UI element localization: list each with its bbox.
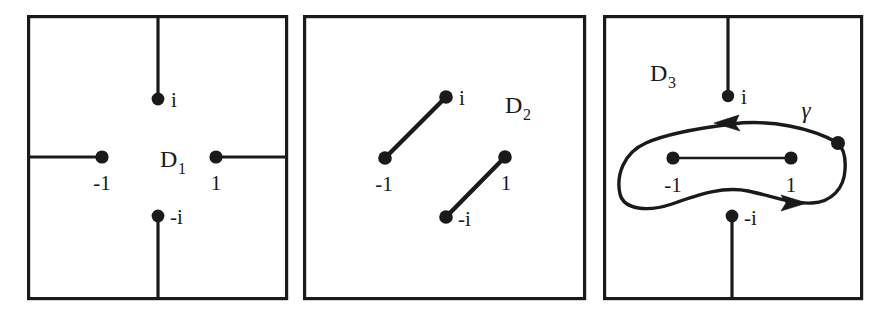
panel-3-point-i bbox=[722, 90, 734, 102]
panel-2-label-i: i bbox=[459, 86, 465, 110]
panel-1-point-minus1 bbox=[95, 150, 108, 163]
panel-1-point-i bbox=[152, 93, 165, 106]
panel-3: i -1 1 -i γ D 3 bbox=[605, 16, 862, 299]
panel-3-domain-label: D bbox=[650, 60, 667, 86]
panel-2-domain-subscript: 2 bbox=[523, 106, 531, 123]
panel-3-point-minusi bbox=[726, 210, 739, 223]
panel-3-label-i: i bbox=[741, 85, 747, 109]
gamma-loop bbox=[619, 123, 845, 209]
complex-analysis-figure: i -1 1 -i D 1 i -1 1 -i D 2 bbox=[0, 0, 886, 317]
panel-2-point-i bbox=[439, 90, 453, 104]
panel-2-label-1: 1 bbox=[501, 171, 512, 195]
figure-canvas: i -1 1 -i D 1 i -1 1 -i D 2 bbox=[0, 0, 886, 317]
panel-1-label-1: 1 bbox=[211, 171, 222, 195]
panel-1-label-i: i bbox=[171, 88, 177, 112]
panel-1: i -1 1 -i D 1 bbox=[29, 16, 287, 299]
panel-1-point-1 bbox=[209, 150, 222, 163]
panel-1-label-minusi: -i bbox=[170, 205, 183, 229]
panel-2-label-minusi: -i bbox=[458, 207, 471, 231]
panel-3-label-1: 1 bbox=[786, 173, 797, 197]
panel-3-domain-subscript: 3 bbox=[668, 74, 676, 91]
gamma-label: γ bbox=[801, 98, 811, 123]
gamma-basepoint bbox=[831, 136, 845, 150]
panel-2-point-minusi bbox=[439, 210, 453, 224]
panel-2-point-1 bbox=[498, 150, 512, 164]
panel-1-point-minusi bbox=[152, 210, 165, 223]
panel-2-slit-minusi-to-1 bbox=[446, 157, 505, 217]
panel-2-label-minus1: -1 bbox=[375, 172, 393, 196]
panel-1-label-minus1: -1 bbox=[93, 171, 111, 195]
panel-1-domain-subscript: 1 bbox=[178, 160, 186, 177]
panel-2-frame bbox=[305, 17, 585, 299]
panel-3-point-minus1 bbox=[666, 151, 679, 164]
panel-3-label-minusi: -i bbox=[744, 206, 757, 230]
panel-2: i -1 1 -i D 2 bbox=[305, 17, 585, 299]
panel-1-domain-label: D bbox=[160, 146, 177, 172]
gamma-arrow-bottom bbox=[781, 195, 807, 211]
panel-2-point-minus1 bbox=[378, 151, 392, 165]
panel-2-domain-label: D bbox=[505, 92, 522, 118]
panel-3-label-minus1: -1 bbox=[664, 173, 682, 197]
panel-2-slit-minus1-to-i bbox=[385, 97, 446, 158]
panel-3-point-1 bbox=[784, 151, 797, 164]
